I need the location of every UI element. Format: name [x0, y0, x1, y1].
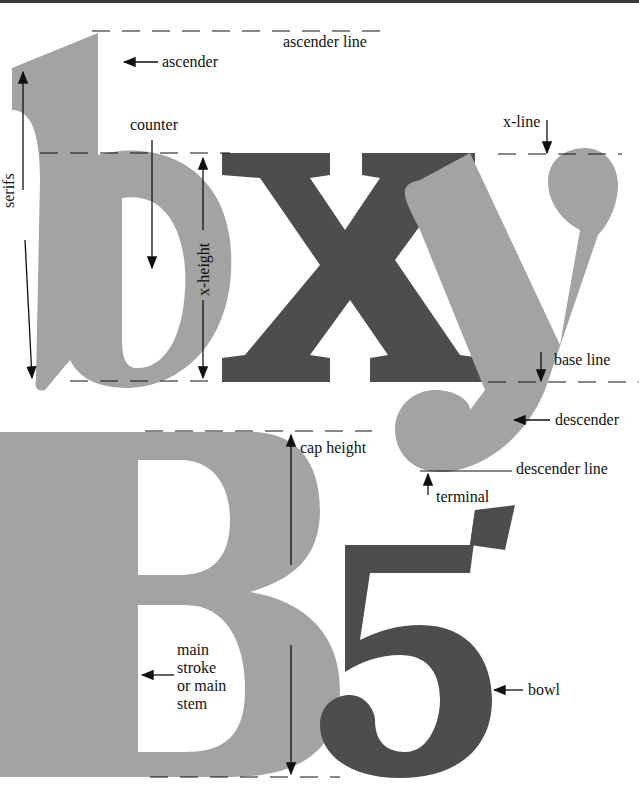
descender-line-label: descender line — [516, 461, 608, 477]
serifs-label: serifs — [1, 173, 17, 208]
ascender-line-label: ascender line — [283, 34, 367, 50]
glyph-artwork — [0, 0, 639, 790]
glyph-b — [12, 33, 231, 391]
terminal-label: terminal — [436, 489, 489, 505]
main-stroke-line-3: or main — [177, 677, 226, 695]
descender-label: descender — [555, 412, 619, 428]
x-height-label: x-height — [196, 243, 212, 296]
counter-label: counter — [130, 117, 178, 133]
main-stroke-line-2: stroke — [177, 659, 226, 677]
x-line-label: x-line — [503, 114, 540, 130]
main-stroke-line-1: main — [177, 641, 226, 659]
main-stroke-label: main stroke or main stem — [177, 641, 226, 713]
typography-anatomy-diagram: ascender line ascender counter x-line se… — [0, 0, 639, 790]
main-stroke-line-4: stem — [177, 695, 226, 713]
bowl-label: bowl — [528, 682, 560, 698]
cap-height-label: cap height — [300, 440, 366, 456]
glyph-5 — [320, 505, 515, 778]
ascender-label: ascender — [162, 54, 218, 70]
base-line-label: base line — [554, 352, 610, 368]
